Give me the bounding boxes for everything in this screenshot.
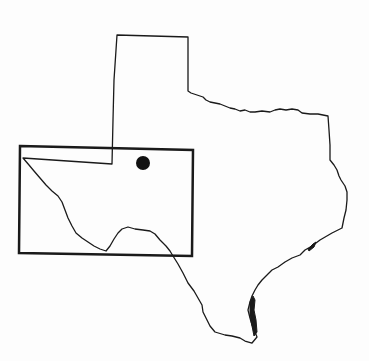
map-container: Study area Site location Texas — [0, 0, 369, 361]
map-background — [0, 0, 369, 361]
texas-map — [0, 0, 369, 361]
location-marker-dot — [136, 156, 150, 170]
